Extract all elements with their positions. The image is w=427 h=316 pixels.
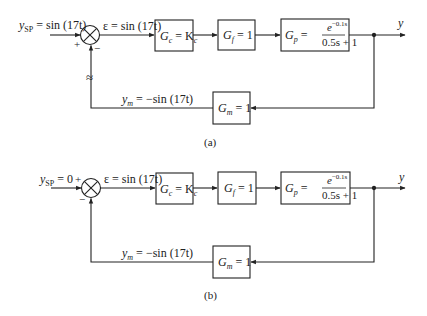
process-denominator: 0.5s + 1: [322, 189, 357, 201]
approx-break-symbol: ≈: [86, 70, 93, 85]
minus-sign: −: [79, 193, 85, 205]
final-element-label: Gf = 1: [224, 181, 254, 197]
minus-sign: −: [94, 42, 100, 54]
output-label: y: [397, 16, 404, 30]
plus-sign: +: [74, 38, 80, 50]
controller-label: Gc = Kc: [160, 182, 198, 198]
output-label: y: [398, 170, 405, 184]
controller-label: Gc = Kc: [160, 29, 198, 45]
process-label: Gp =: [285, 28, 308, 44]
plus-sign: +: [75, 173, 81, 185]
setpoint-label: ySP = 0: [39, 172, 73, 188]
caption-b: (b): [204, 289, 217, 302]
process-denominator: 0.5s + 1: [322, 36, 357, 48]
process-label: Gp =: [285, 181, 308, 197]
process-numerator: e−0.1s: [327, 173, 348, 186]
block-diagrams: ySP = sin (17t) + − ε = sin (17t) Gc = K…: [0, 0, 427, 316]
error-label: ε = sin (17t): [103, 19, 161, 33]
caption-a: (a): [204, 136, 217, 149]
process-numerator: e−0.1s: [327, 20, 348, 33]
error-label: ε = sin (17t): [104, 172, 162, 186]
measurement-label: Gm = 1: [218, 101, 251, 117]
final-element-label: Gf = 1: [223, 28, 253, 44]
measurement-label: Gm = 1: [218, 255, 251, 271]
feedback-label: ym = −sin (17t): [121, 92, 193, 108]
setpoint-label: ySP = sin (17t): [18, 18, 86, 34]
feedback-label: ym = −sin (17t): [121, 246, 193, 262]
